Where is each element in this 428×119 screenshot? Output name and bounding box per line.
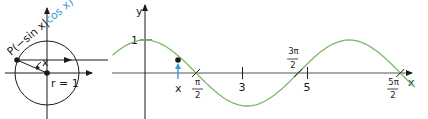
unit-circle-group: x r = 1 P(−sin x|cos x): [5, 0, 108, 119]
sine-cosine-diagram: x r = 1 P(−sin x|cos x) y x 1 π233π255π2…: [0, 0, 428, 119]
projection-arrow-icon: [64, 57, 72, 63]
radius-label: r = 1: [51, 77, 79, 90]
point-p-label: P(−sin x|cos x): [5, 0, 77, 58]
curve-point: [175, 57, 181, 63]
x-tick-denominator: 2: [195, 90, 200, 100]
x-tick-numerator: 5π: [388, 77, 399, 87]
cosine-graph: y x 1 π233π255π2 x: [112, 5, 415, 119]
x-tick-label: 3: [239, 81, 246, 94]
x-tick-denominator: 2: [390, 90, 395, 100]
y-axis-label: y: [136, 5, 143, 18]
x-marker-label: x: [175, 82, 182, 95]
angle-label: x: [42, 56, 49, 69]
circle-center: [44, 70, 50, 76]
x-tick-denominator: 2: [290, 60, 295, 70]
x-tick-label: 5: [304, 81, 311, 94]
x-tick-numerator: 3π: [288, 46, 299, 56]
x-tick-numerator: π: [195, 77, 200, 87]
point-p: [14, 57, 20, 63]
